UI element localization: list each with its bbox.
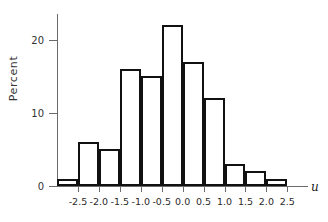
histogram-bar bbox=[225, 164, 246, 186]
x-tick bbox=[266, 186, 267, 192]
y-tick-label: 20 bbox=[4, 34, 44, 45]
y-tick bbox=[49, 40, 57, 41]
y-axis-line bbox=[57, 14, 58, 186]
x-tick bbox=[120, 186, 121, 192]
histogram-chart: Percent 01020 -2.5-2.0-1.5-1.0-0.50.00.5… bbox=[0, 0, 328, 222]
x-axis-line bbox=[49, 186, 308, 187]
histogram-bar bbox=[57, 179, 78, 186]
x-tick bbox=[78, 186, 79, 192]
y-tick bbox=[49, 113, 57, 114]
x-tick bbox=[204, 186, 205, 192]
histogram-bar bbox=[204, 98, 225, 186]
histogram-bar bbox=[99, 149, 120, 186]
y-tick-label: 0 bbox=[4, 181, 44, 192]
x-axis-title: u bbox=[311, 180, 319, 194]
x-tick bbox=[287, 186, 288, 192]
histogram-bar bbox=[162, 25, 183, 186]
x-tick bbox=[183, 186, 184, 192]
x-tick bbox=[99, 186, 100, 192]
histogram-bar bbox=[245, 171, 266, 186]
x-tick bbox=[245, 186, 246, 192]
histogram-bar bbox=[78, 142, 99, 186]
histogram-bar bbox=[120, 69, 141, 186]
histogram-bar bbox=[266, 179, 287, 186]
y-tick-label: 10 bbox=[4, 107, 44, 118]
x-tick-label: 2.5 bbox=[267, 196, 307, 207]
y-axis-title: Percent bbox=[7, 44, 20, 114]
histogram-bar bbox=[141, 76, 162, 186]
histogram-bars bbox=[0, 0, 328, 222]
x-tick bbox=[141, 186, 142, 192]
y-tick bbox=[49, 186, 57, 187]
histogram-bar bbox=[183, 62, 204, 186]
x-tick bbox=[162, 186, 163, 192]
x-tick bbox=[225, 186, 226, 192]
